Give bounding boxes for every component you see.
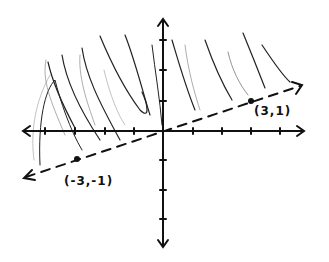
point-b-label: (-3,-1)	[64, 174, 113, 188]
point-a-label: (3,1)	[254, 104, 291, 118]
point-neg3-neg1	[74, 156, 80, 162]
inequality-graph	[0, 0, 329, 262]
y-axis	[158, 19, 168, 247]
